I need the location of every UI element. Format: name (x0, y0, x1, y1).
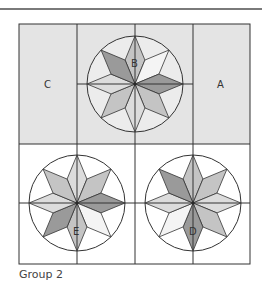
label-e: E (73, 226, 79, 237)
label-d: D (189, 226, 197, 237)
quilt-diagram: C A B E D (0, 0, 265, 289)
label-a: A (217, 79, 224, 90)
label-b: B (131, 58, 138, 69)
figure-caption: Group 2 (19, 268, 63, 281)
label-c: C (44, 79, 51, 90)
